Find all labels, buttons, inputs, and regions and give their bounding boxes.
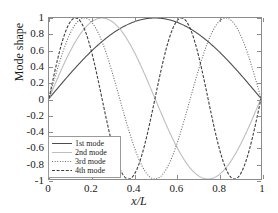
legend-label: 4th mode bbox=[73, 167, 105, 175]
legend-label: 1st mode bbox=[73, 140, 104, 148]
x-tick bbox=[263, 18, 264, 22]
legend-line-sample bbox=[51, 157, 73, 166]
y-tick bbox=[257, 132, 261, 133]
y-tick bbox=[257, 165, 261, 166]
x-tick bbox=[92, 18, 93, 22]
y-tick bbox=[257, 18, 261, 19]
legend-item[interactable]: 2nd mode bbox=[51, 148, 117, 157]
y-tick-label: -0.6 bbox=[14, 142, 44, 153]
x-tick bbox=[220, 175, 221, 179]
x-tick-label: 1 bbox=[259, 183, 265, 194]
y-tick-label: -0.4 bbox=[14, 126, 44, 137]
y-tick bbox=[49, 100, 53, 101]
y-tick bbox=[49, 51, 53, 52]
x-tick-label: 0.4 bbox=[127, 183, 141, 194]
legend-box: 1st mode2nd mode3rd mode4th mode bbox=[48, 136, 121, 178]
y-tick bbox=[49, 18, 53, 19]
y-tick bbox=[257, 51, 261, 52]
x-tick-label: 0.8 bbox=[212, 183, 226, 194]
x-tick bbox=[263, 175, 264, 179]
x-tick-label: 0.2 bbox=[84, 183, 98, 194]
y-tick bbox=[49, 132, 53, 133]
legend-item[interactable]: 3rd mode bbox=[51, 157, 117, 166]
y-tick bbox=[257, 67, 261, 68]
legend-label: 2nd mode bbox=[73, 149, 107, 157]
y-tick bbox=[49, 116, 53, 117]
mode-curve bbox=[49, 18, 261, 99]
x-tick bbox=[177, 18, 178, 22]
y-tick bbox=[257, 100, 261, 101]
y-tick bbox=[257, 116, 261, 117]
x-tick bbox=[177, 175, 178, 179]
x-tick bbox=[220, 18, 221, 22]
y-tick-label: -0.2 bbox=[14, 109, 44, 120]
legend-item[interactable]: 1st mode bbox=[51, 139, 117, 148]
legend-line-sample bbox=[51, 148, 73, 157]
legend-line-sample bbox=[51, 139, 73, 148]
y-tick bbox=[257, 148, 261, 149]
y-axis-label: Mode shape bbox=[13, 0, 25, 107]
x-tick-label: 0.6 bbox=[170, 183, 184, 194]
y-tick bbox=[49, 67, 53, 68]
y-tick-label: -0.8 bbox=[14, 158, 44, 169]
y-tick bbox=[257, 34, 261, 35]
y-tick bbox=[49, 34, 53, 35]
x-tick bbox=[135, 18, 136, 22]
y-tick-label: -1 bbox=[14, 175, 44, 186]
legend-line-sample bbox=[51, 166, 73, 175]
legend-label: 3rd mode bbox=[73, 158, 105, 166]
legend-item[interactable]: 4th mode bbox=[51, 166, 117, 175]
y-tick bbox=[257, 83, 261, 84]
mode-shape-figure: 00.20.40.60.81 10.80.60.40.20-0.2-0.4-0.… bbox=[0, 0, 278, 213]
x-axis-label: x/L bbox=[0, 195, 278, 207]
x-tick bbox=[135, 175, 136, 179]
y-tick bbox=[49, 83, 53, 84]
x-tick-label: 0 bbox=[45, 183, 51, 194]
